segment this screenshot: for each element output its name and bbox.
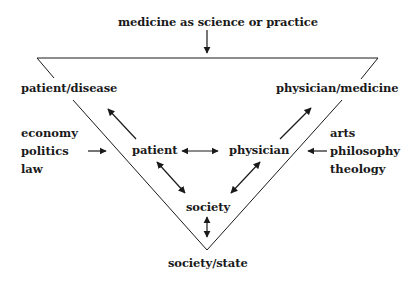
- triangle-left-edge-lower: [73, 100, 207, 250]
- node-patient: patient: [132, 145, 177, 157]
- arrow-physician-society: [231, 162, 260, 193]
- influence-law: law: [21, 160, 78, 178]
- triangle-right-edge-lower: [207, 100, 342, 250]
- bottom-label: society/state: [168, 258, 248, 270]
- arrow-patient-to-disease: [108, 109, 136, 139]
- triangle-right-edge-upper: [361, 58, 378, 79]
- node-physician: physician: [229, 145, 289, 157]
- influence-politics: politics: [21, 142, 78, 160]
- triangle-left-edge-upper: [37, 58, 54, 78]
- corner-left-label: patient/disease: [21, 83, 117, 95]
- node-society: society: [186, 202, 230, 214]
- corner-right-label: physician/medicine: [276, 83, 398, 95]
- influence-economy: economy: [21, 124, 78, 142]
- influence-philosophy: philosophy: [330, 142, 400, 160]
- top-label: medicine as science or practice: [118, 17, 318, 29]
- influence-arts: arts: [330, 124, 400, 142]
- influence-theology: theology: [330, 160, 400, 178]
- left-influences: economy politics law: [21, 124, 78, 178]
- arrow-physician-to-medicine: [280, 108, 311, 139]
- right-influences: arts philosophy theology: [330, 124, 400, 178]
- arrow-patient-society: [157, 162, 185, 193]
